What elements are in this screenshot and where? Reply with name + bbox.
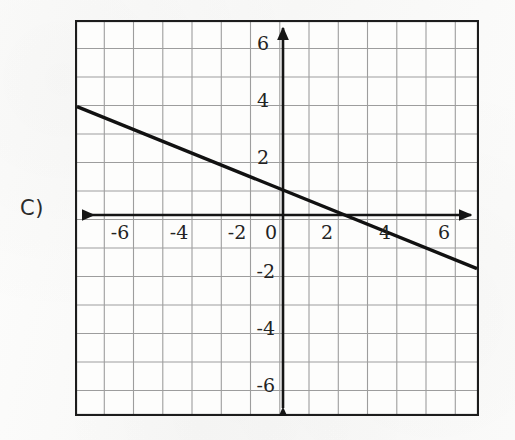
x-tick-label-2: 2 <box>321 221 333 243</box>
x-tick-label--6: -6 <box>111 221 130 243</box>
y-tick-label--2: -2 <box>256 260 275 282</box>
x-tick-label-4: 4 <box>379 221 391 243</box>
coordinate-graph: -6 -4 -2 0 2 4 6 6 4 2 -2 -4 -6 <box>75 20 479 416</box>
graph-svg: -6 -4 -2 0 2 4 6 6 4 2 -2 -4 -6 <box>75 20 479 416</box>
y-tick-label--4: -4 <box>256 317 275 339</box>
y-tick-label-2: 2 <box>257 146 269 168</box>
plot-background <box>76 21 479 416</box>
worksheet-page: C) <box>0 0 515 440</box>
y-tick-label-6: 6 <box>257 32 269 54</box>
x-tick-label--2: -2 <box>228 221 247 243</box>
x-tick-label-0: 0 <box>265 221 277 243</box>
x-tick-label--4: -4 <box>170 221 189 243</box>
y-tick-label-4: 4 <box>257 89 269 111</box>
y-tick-label--6: -6 <box>256 374 275 396</box>
item-label: C) <box>20 196 44 220</box>
x-tick-label-6: 6 <box>438 221 450 243</box>
